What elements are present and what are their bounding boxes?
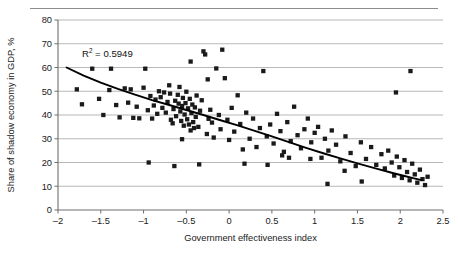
data-point: [126, 101, 130, 105]
x-tick-label: 0.5: [265, 216, 278, 226]
data-point: [97, 97, 101, 101]
data-point: [150, 116, 154, 120]
data-point: [423, 183, 427, 187]
data-point: [184, 90, 188, 94]
data-point: [242, 162, 246, 166]
data-point: [129, 87, 133, 91]
data-point: [313, 131, 317, 135]
x-tick-label: –1: [138, 216, 148, 226]
data-point: [197, 162, 201, 166]
x-tick-group: –2–1.5–1–0.500.511.522.5: [53, 210, 450, 226]
data-point: [407, 178, 411, 182]
data-point: [188, 59, 192, 63]
data-point: [359, 140, 363, 144]
y-tick-group: 01020304050607080: [42, 15, 58, 215]
data-point: [185, 117, 189, 121]
data-points-group: [75, 48, 430, 188]
x-tick-label: 2: [398, 216, 403, 226]
data-point: [210, 120, 214, 124]
data-point: [194, 93, 198, 97]
data-point: [191, 120, 195, 124]
data-point: [160, 106, 164, 110]
data-point: [330, 128, 334, 132]
data-point: [131, 116, 135, 120]
data-point: [397, 165, 401, 169]
data-point: [168, 91, 172, 95]
data-point: [177, 85, 181, 89]
data-point: [80, 102, 84, 106]
r-squared-annotation: R2 = 0.5949: [82, 47, 133, 59]
data-point: [247, 137, 251, 141]
x-tick-label: –0.5: [177, 216, 195, 226]
data-point: [402, 158, 406, 162]
data-point: [395, 154, 399, 158]
data-point: [268, 122, 272, 126]
data-point: [212, 135, 216, 139]
data-point: [101, 113, 105, 117]
data-point: [218, 127, 222, 131]
data-point: [316, 125, 320, 129]
data-point: [182, 112, 186, 116]
data-point: [369, 145, 373, 149]
data-point: [364, 157, 368, 161]
data-point: [271, 141, 275, 145]
data-point: [319, 156, 323, 160]
r2-value: = 0.5949: [92, 48, 132, 59]
data-point: [292, 105, 296, 109]
data-point: [415, 181, 419, 185]
data-point: [174, 114, 178, 118]
data-point: [109, 67, 113, 71]
data-point: [278, 129, 282, 133]
data-point: [408, 69, 412, 73]
data-point: [413, 172, 417, 176]
scatter-plot: 01020304050607080 –2–1.5–1–0.500.511.522…: [0, 0, 458, 260]
data-point: [227, 138, 231, 142]
data-point: [208, 108, 212, 112]
data-point: [148, 94, 152, 98]
data-point: [258, 126, 262, 130]
data-point: [360, 179, 364, 183]
data-point: [198, 109, 202, 113]
data-point: [147, 160, 151, 164]
data-point: [244, 110, 248, 114]
x-tick-label: 0: [227, 216, 232, 226]
data-point: [159, 95, 163, 99]
data-point: [187, 122, 191, 126]
data-point: [220, 48, 224, 52]
data-point: [390, 160, 394, 164]
x-axis-label: Government effectiveness index: [184, 233, 317, 243]
data-point: [188, 97, 192, 101]
data-point: [261, 69, 265, 73]
y-tick-label: 10: [42, 182, 52, 192]
data-point: [206, 77, 210, 81]
y-tick-label: 80: [42, 15, 52, 25]
data-point: [200, 98, 204, 102]
data-point: [295, 133, 299, 137]
y-tick-label: 50: [42, 87, 52, 97]
data-point: [114, 103, 118, 107]
data-point: [302, 127, 306, 131]
data-point: [343, 134, 347, 138]
data-point: [143, 67, 147, 71]
data-point: [386, 148, 390, 152]
data-point: [354, 164, 358, 168]
data-point: [334, 143, 338, 147]
data-point: [178, 109, 182, 113]
data-point: [418, 167, 422, 171]
data-point: [275, 112, 279, 116]
data-point: [214, 66, 218, 70]
data-point: [183, 101, 187, 105]
page-top-rule: [30, 8, 438, 9]
data-point: [342, 169, 346, 173]
data-point: [117, 115, 121, 119]
data-point: [181, 96, 185, 100]
data-point: [164, 110, 168, 114]
data-point: [254, 145, 258, 149]
y-tick-label: 70: [42, 39, 52, 49]
y-axis-label: Share of shadow economy in GDP, %: [6, 38, 16, 193]
data-point: [107, 88, 111, 92]
data-point: [176, 93, 180, 97]
x-tick-label: 1: [312, 216, 317, 226]
data-point: [193, 105, 197, 109]
y-tick-label: 30: [42, 134, 52, 144]
